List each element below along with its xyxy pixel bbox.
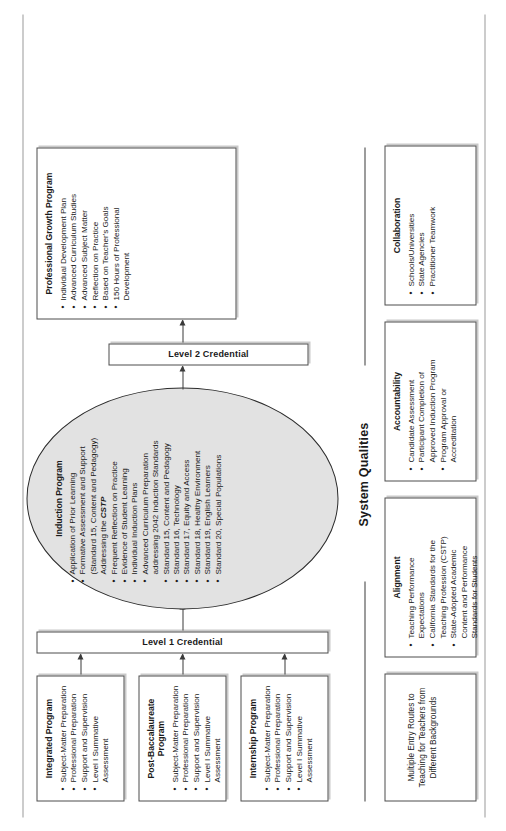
post-baccalaureate-program-bullets: Subject-Matter Preparation Professional … [170,676,229,800]
accountability-bullets: Candidate Assessment Participant Complet… [406,322,465,480]
list-item: Reflection on Practice [90,154,101,308]
list-item: Practitioner Teamwork [427,152,438,294]
list-item: Application of Prior Learning [67,402,77,582]
level-1-credential-label-wrap: Level 1 Credential [37,632,327,652]
list-item-continuation-cstp: Addressing the CSTP [98,402,108,582]
diagram-stage: Integrated Program Subject-Matter Prepar… [0,0,506,831]
list-item: Support and Supervision [283,682,294,790]
multiple-entry-routes-box[interactable]: Multiple Entry Routes to Teaching for Te… [384,673,476,801]
list-item-continuation: Accreditation [448,328,459,470]
list-item: Standard 19, English Learners [202,402,212,582]
list-item: Standard 20, Special Populations [213,402,223,582]
collaboration-bullets: Schools/Universities State Agencies Prac… [406,146,444,304]
professional-growth-program-box[interactable]: Professional Growth Program Individual D… [36,147,236,319]
list-item: Evidence of Student Learning [119,402,129,582]
list-item: 150 Hours of Professional [111,154,122,308]
page-canvas: Integrated Program Subject-Matter Prepar… [0,0,506,831]
collaboration-box[interactable]: Collaboration Schools/Universities State… [384,145,476,305]
list-item: Standard 16, Technology [171,402,181,582]
list-item: Level I Summative Assessment [90,682,111,790]
page-rule-bottom [484,14,485,817]
induction-program-bullets: Application of Prior Learning Formative … [67,388,223,608]
cstp-emphasis: CSTP [98,496,107,518]
list-item: Professional Preparation [68,682,79,790]
integrated-program-title: Integrated Program [44,682,54,794]
level-2-credential-box[interactable]: Level 2 Credential [108,343,308,365]
integrated-program-box[interactable]: Integrated Program Subject-Matter Prepar… [36,675,124,801]
list-item-continuation: (Standard 15, Content and Pedagogy) [88,402,98,582]
list-item: Advanced Curriculum Preparation [140,402,150,582]
arrow-integrated-to-level1 [80,654,81,674]
list-item-continuation: Approved Induction Program [427,328,438,470]
arrow-induction-to-level2 [182,366,183,389]
alignment-title: Alignment [392,504,402,650]
induction-program-title: Induction Program [53,398,63,598]
list-item: Advanced Subject Matter [79,154,90,308]
internship-program-box[interactable]: Internship Program Subject-Matter Prepar… [240,675,328,801]
list-item: Professional Preparation [272,682,283,790]
page-rule-top [22,14,23,817]
induction-program-oval[interactable]: Induction Program Application of Prior L… [26,387,338,609]
list-item: Based on Teacher's Goals [100,154,111,308]
list-item: Support and Supervision [79,682,90,790]
list-item: Standard 17, Equity and Access [181,402,191,582]
collaboration-title: Collaboration [392,152,402,298]
list-item: Support and Supervision [191,682,202,790]
level-1-credential-box[interactable]: Level 1 Credential [36,631,328,653]
list-item-continuation: Expectations [416,504,427,646]
arrow-level2-to-professional-growth [182,320,183,342]
list-item: Individual Induction Plans [129,402,139,582]
list-item: State-Adopted Academic [448,504,459,646]
list-item-continuation: addressing 2042 Induction Standards [150,402,160,582]
list-item-continuation: Content and Performance [459,504,470,646]
list-item-continuation: Development [121,154,132,308]
list-item: Frequent Reflection on Practice [109,402,119,582]
post-baccalaureate-program-box[interactable]: Post-Baccalaureate Program Subject-Matte… [138,675,226,801]
level-2-credential-label: Level 2 Credential [168,349,249,359]
list-item: Candidate Assessment [406,328,417,470]
list-item: Subject-Matter Preparation [170,682,181,790]
list-item-continuation: Standards for Students [469,504,480,646]
list-item: Subject-Matter Preparation [262,682,273,790]
professional-growth-program-bullets: Individual Development Plan Advanced Cur… [58,148,138,318]
alignment-bullets: Teaching Performance Expectations Califo… [406,498,486,656]
list-item: Standard 15, Content and Pedagogy [161,402,171,582]
internship-program-bullets: Subject-Matter Preparation Professional … [262,676,321,800]
accountability-title: Accountability [392,328,402,474]
list-item-continuation: Teaching Profession (CSTP) [438,504,449,646]
list-item: Participant Completion of [416,328,427,470]
professional-growth-program-title: Professional Growth Program [44,154,54,312]
accountability-box[interactable]: Accountability Candidate Assessment Part… [384,321,476,481]
integrated-program-bullets: Subject-Matter Preparation Professional … [58,676,117,800]
list-item: Schools/Universities [406,152,417,294]
post-baccalaureate-program-title: Post-Baccalaureate Program [146,682,166,794]
system-qualities-heading: System Qualities [356,147,370,801]
list-item: State Agencies [416,152,427,294]
list-item: Standard 18, Healthy Environment [192,402,202,582]
arrow-postbac-to-level1 [182,654,183,674]
list-item: Level I Summative Assessment [294,682,315,790]
multiple-entry-routes-text: Multiple Entry Routes to Teaching for Te… [405,682,438,792]
level-1-credential-label: Level 1 Credential [142,637,223,647]
list-item: Professional Preparation [180,682,191,790]
list-item: Program Approval or [438,328,449,470]
internship-program-title: Internship Program [248,682,258,794]
list-item: Level I Summative Assessment [202,682,223,790]
level-2-credential-label-wrap: Level 2 Credential [109,344,307,364]
list-item: Individual Development Plan [58,154,69,308]
system-qualities-rule-right [364,147,365,365]
list-item: California Standards for the [427,504,438,646]
list-item: Teaching Performance [406,504,417,646]
arrow-internship-to-level1 [284,654,285,674]
list-item: Subject-Matter Preparation [58,682,69,790]
alignment-box[interactable]: Alignment Teaching Performance Expectati… [384,497,476,657]
list-item: Advanced Curriculum Studies [68,154,79,308]
list-item: Formative Assessment and Support [77,402,87,582]
